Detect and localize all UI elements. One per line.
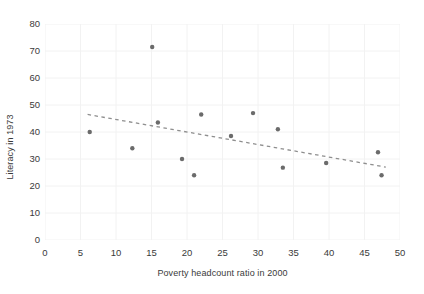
data-point	[130, 146, 134, 150]
data-point	[281, 165, 285, 169]
y-axis-title: Literacy in 1973	[0, 0, 20, 294]
x-tick-label: 35	[279, 248, 309, 258]
data-point	[276, 127, 280, 131]
x-tick-label: 10	[101, 248, 131, 258]
x-tick-label: 25	[208, 248, 238, 258]
data-point	[324, 161, 328, 165]
data-point	[199, 112, 203, 116]
plot-canvas	[45, 24, 400, 240]
x-tick-label: 15	[137, 248, 167, 258]
x-tick-label: 40	[314, 248, 344, 258]
data-point	[180, 157, 184, 161]
data-point	[376, 150, 380, 154]
data-point	[156, 120, 160, 124]
x-tick-label: 20	[172, 248, 202, 258]
data-point	[192, 173, 196, 177]
data-point	[150, 45, 154, 49]
x-tick-label: 0	[30, 248, 60, 258]
data-point	[379, 173, 383, 177]
x-tick-label: 30	[243, 248, 273, 258]
data-point	[251, 111, 255, 115]
scatter-chart: Literacy in 1973 01020304050607080 05101…	[0, 0, 424, 294]
data-points	[88, 45, 384, 178]
x-axis-title: Poverty headcount ratio in 2000	[45, 268, 400, 278]
x-tick-label: 45	[350, 248, 380, 258]
plot-area	[45, 24, 400, 240]
x-tick-label: 50	[385, 248, 415, 258]
data-point	[88, 130, 92, 134]
gridlines	[45, 24, 400, 240]
x-tick-label: 5	[66, 248, 96, 258]
data-point	[229, 134, 233, 138]
